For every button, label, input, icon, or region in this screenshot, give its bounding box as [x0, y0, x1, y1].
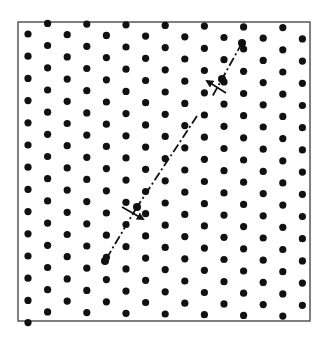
lattice-atom	[240, 223, 247, 230]
lattice-atom	[240, 156, 247, 163]
lattice-figure	[0, 0, 327, 339]
lattice-atom	[122, 21, 129, 28]
lattice-atom	[181, 122, 188, 129]
lattice-atom	[44, 220, 51, 227]
lattice-atom	[162, 88, 169, 95]
lattice-atom	[181, 55, 188, 62]
lattice-atom	[260, 168, 267, 175]
lattice-atom	[260, 79, 267, 86]
lattice-atom	[122, 88, 129, 95]
lattice-atom	[162, 177, 169, 184]
lattice-atom	[83, 109, 90, 116]
lattice-atom	[24, 119, 31, 126]
lattice-atom	[24, 30, 31, 37]
lattice-atom	[24, 97, 31, 104]
lattice-atom	[299, 191, 306, 198]
lattice-atom	[83, 287, 90, 294]
lattice-atom	[103, 232, 110, 239]
lattice-atom	[142, 166, 149, 173]
lattice-atom	[103, 121, 110, 128]
lattice-atom	[103, 32, 110, 39]
lattice-atom	[279, 24, 286, 31]
lattice-atoms	[24, 20, 306, 326]
lattice-atom	[201, 178, 208, 185]
lattice-atom	[142, 99, 149, 106]
slip-line-segment	[212, 43, 242, 97]
lattice-atom	[122, 177, 129, 184]
lattice-atom	[260, 35, 267, 42]
lattice-atom	[162, 133, 169, 140]
lattice-atom	[103, 165, 110, 172]
lattice-atom	[240, 112, 247, 119]
bottom-endpoint-atom	[101, 257, 109, 265]
lattice-atom	[220, 101, 227, 108]
lattice-atom	[122, 310, 129, 317]
lattice-atom	[24, 319, 31, 326]
lattice-atom	[103, 276, 110, 283]
lattice-atom	[24, 141, 31, 148]
lattice-atom	[83, 43, 90, 50]
lattice-atom	[142, 33, 149, 40]
lattice-atom	[220, 234, 227, 241]
lattice-atom	[103, 143, 110, 150]
lattice-atom	[64, 275, 71, 282]
lattice-atom	[122, 288, 129, 295]
lattice-atom	[220, 212, 227, 219]
lattice-atom	[279, 246, 286, 253]
lattice-atom	[44, 131, 51, 138]
lattice-atom	[64, 209, 71, 216]
lattice-atom	[83, 265, 90, 272]
lattice-atom	[220, 56, 227, 63]
lattice-atom	[44, 264, 51, 271]
lattice-atom	[162, 199, 169, 206]
lattice-atom	[201, 23, 208, 30]
lattice-atom	[201, 89, 208, 96]
lattice-atom	[64, 76, 71, 83]
lattice-atom	[122, 154, 129, 161]
lattice-atom	[162, 66, 169, 73]
lattice-atom	[260, 146, 267, 153]
lattice-atom	[201, 67, 208, 74]
lattice-atom	[279, 68, 286, 75]
lattice-atom	[44, 109, 51, 116]
lattice-atom	[240, 23, 247, 30]
lattice-atom	[103, 76, 110, 83]
lattice-atom	[162, 310, 169, 317]
lattice-atom	[44, 20, 51, 27]
lattice-atom	[83, 198, 90, 205]
lattice-atom	[122, 110, 129, 117]
lattice-atom	[162, 288, 169, 295]
lattice-atom	[220, 300, 227, 307]
lattice-atom	[24, 252, 31, 259]
lattice-atom	[240, 179, 247, 186]
lattice-atom	[103, 98, 110, 105]
lattice-atom	[181, 277, 188, 284]
lattice-atom	[162, 111, 169, 118]
lattice-atom	[279, 113, 286, 120]
lattice-atom	[279, 313, 286, 320]
lattice-atom	[162, 222, 169, 229]
lattice-atom	[122, 199, 129, 206]
lattice-atom	[299, 35, 306, 42]
lattice-atom	[64, 231, 71, 238]
lattice-atom	[181, 233, 188, 240]
lattice-atom	[299, 102, 306, 109]
lattice-atom	[240, 134, 247, 141]
lattice-atom	[64, 120, 71, 127]
lattice-atom	[24, 53, 31, 60]
lattice-atom	[44, 286, 51, 293]
lattice-atom	[83, 176, 90, 183]
lattice-atom	[162, 44, 169, 51]
lattice-atom	[103, 187, 110, 194]
lattice-atom	[181, 189, 188, 196]
lattice-atom	[122, 132, 129, 139]
upper-arrow-atom	[218, 75, 226, 83]
lattice-atom	[83, 87, 90, 94]
lattice-atom	[44, 64, 51, 71]
lattice-atom	[142, 255, 149, 262]
lattice-atom	[142, 232, 149, 239]
lattice-atom	[201, 200, 208, 207]
lattice-atom	[279, 202, 286, 209]
lattice-atom	[181, 211, 188, 218]
lattice-atom	[260, 279, 267, 286]
